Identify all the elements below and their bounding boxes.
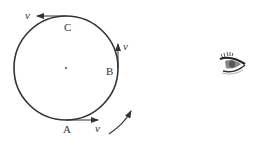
circular-motion-diagram: v C v B v A: [0, 0, 264, 146]
eye-icon: [220, 52, 245, 74]
rotation-direction-arrow: [109, 111, 131, 134]
velocity-label-b: v: [123, 40, 128, 52]
velocity-label-c: v: [25, 9, 30, 21]
point-label-c: C: [64, 21, 71, 33]
center-dot: [65, 67, 67, 69]
velocity-label-a: v: [95, 122, 100, 134]
point-label-b: B: [106, 65, 113, 77]
point-label-a: A: [63, 123, 71, 135]
